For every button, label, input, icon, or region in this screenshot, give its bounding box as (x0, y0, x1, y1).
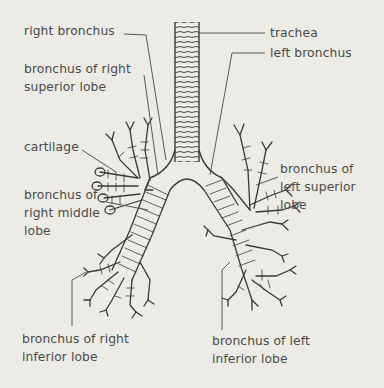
label-bronchus-right-middle-lobe: bronchus of right middle lobe (24, 186, 100, 240)
bronchial-tree-diagram: right bronchus bronchus of right superio… (0, 0, 384, 388)
label-trachea: trachea (270, 24, 318, 42)
label-bronchus-left-superior-lobe: bronchus of left superior lobe (280, 160, 356, 214)
label-cartilage: cartilage (24, 138, 79, 156)
label-bronchus-right-superior-lobe: bronchus of right superior lobe (24, 60, 131, 96)
left-bronchial-tree (204, 124, 300, 310)
trachea-shape (145, 22, 232, 190)
label-right-bronchus: right bronchus (24, 22, 115, 40)
label-bronchus-right-inferior-lobe: bronchus of right inferior lobe (22, 330, 129, 366)
label-bronchus-left-inferior-lobe: bronchus of left inferior lobe (212, 332, 310, 368)
label-left-bronchus: left bronchus (270, 44, 352, 62)
